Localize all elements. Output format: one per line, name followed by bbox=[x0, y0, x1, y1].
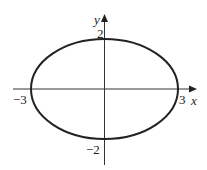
x-axis-label: x bbox=[191, 94, 197, 107]
diagram-canvas bbox=[0, 0, 207, 170]
x-axis-arrow-icon bbox=[189, 86, 197, 93]
tick-label-x-neg-3: −3 bbox=[13, 93, 27, 106]
y-axis-label: y bbox=[94, 13, 100, 26]
tick-label-x-3: 3 bbox=[179, 93, 186, 106]
y-axis-arrow-icon bbox=[101, 14, 108, 22]
tick-label-y-2: 2 bbox=[97, 27, 104, 40]
tick-label-y-neg-2: −2 bbox=[86, 143, 100, 156]
ellipse-diagram: y 2 −3 3 x −2 bbox=[0, 0, 207, 170]
